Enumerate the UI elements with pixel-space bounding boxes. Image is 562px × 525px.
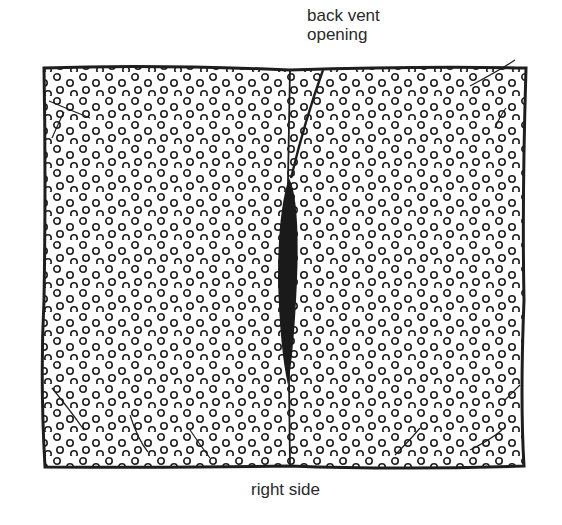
cushion-diagram (0, 0, 562, 525)
